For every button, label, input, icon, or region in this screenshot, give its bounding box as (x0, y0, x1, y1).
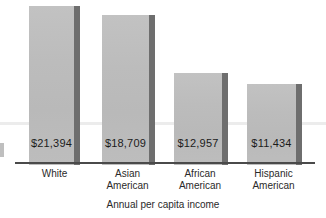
bar-value-label: $12,957 (174, 137, 222, 149)
bar-hispanic-american[interactable]: $11,434 (247, 84, 302, 165)
bar-value-label: $18,709 (102, 137, 149, 149)
category-label-line: American (172, 180, 228, 192)
category-label-line: African (172, 168, 228, 180)
category-label-white: White (29, 168, 80, 180)
bar-value-label: $21,394 (29, 137, 74, 149)
bar-body (174, 73, 222, 165)
category-label-asian-american: Asian American (100, 168, 155, 192)
bar-shadow (222, 73, 228, 165)
category-label-african-american: African American (172, 168, 228, 192)
bar-chart: $21,394 $18,709 $12,957 $11,434 White As… (0, 0, 326, 218)
bar-white[interactable]: $21,394 (29, 6, 80, 165)
bar-asian-american[interactable]: $18,709 (102, 15, 155, 165)
bar-shadow (296, 84, 302, 165)
x-axis-title: Annual per capita income (0, 199, 326, 210)
bar-body (247, 84, 296, 165)
bar-african-american[interactable]: $12,957 (174, 73, 228, 165)
category-label-line: American (245, 180, 302, 192)
bar-shadow (149, 15, 155, 165)
category-label-line: Hispanic (245, 168, 302, 180)
category-label-line: White (29, 168, 80, 180)
category-label-hispanic-american: Hispanic American (245, 168, 302, 192)
category-label-line: Asian (100, 168, 155, 180)
x-axis-line (15, 162, 315, 164)
bar-shadow (74, 6, 80, 165)
category-label-line: American (100, 180, 155, 192)
plot-area: $21,394 $18,709 $12,957 $11,434 (0, 0, 326, 165)
bar-value-label: $11,434 (247, 137, 296, 149)
